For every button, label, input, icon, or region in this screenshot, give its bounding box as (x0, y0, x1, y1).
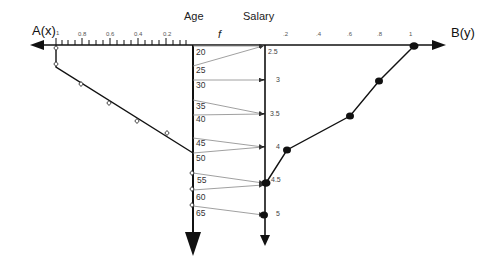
salary-value: 3.5 (270, 110, 280, 117)
age-axis (185, 45, 201, 256)
diagram-canvas (0, 0, 496, 263)
a-tick-label: 0.2 (163, 31, 171, 37)
salary-value: 5 (276, 210, 280, 217)
left-arrowhead-icon (30, 40, 44, 50)
membership-axis (30, 38, 446, 50)
age-value: 25 (196, 66, 205, 75)
salary-value: 4 (276, 143, 280, 150)
b-axis-label: B(y) (451, 26, 475, 39)
age-value: 50 (196, 154, 205, 163)
a-tick-label: 0.6 (106, 31, 114, 37)
a-diamond-markers (54, 46, 194, 208)
age-title: Age (184, 11, 204, 22)
b-membership-curve (260, 42, 419, 218)
b-dot-markers (260, 42, 419, 218)
salary-value: 3 (276, 76, 280, 83)
age-axis-arrowhead-icon (185, 232, 201, 256)
a-axis-ticks (56, 38, 186, 45)
salary-value: 2.5 (268, 48, 278, 55)
a-tick-label: 1 (56, 30, 59, 36)
salary-value: 4.5 (271, 176, 281, 183)
mapping-f-label: f (218, 29, 221, 40)
a-tick-label: 0.8 (78, 31, 86, 37)
b-tick-label: 1 (409, 31, 412, 37)
age-value: 65 (196, 209, 205, 218)
age-value: 60 (196, 193, 205, 202)
age-value: 55 (197, 176, 206, 185)
a-axis-label: A(x) (32, 24, 56, 37)
salary-axis-arrowhead-icon (260, 235, 270, 246)
salary-title: Salary (243, 11, 274, 22)
b-tick-label: .4 (316, 31, 321, 37)
right-arrowhead-icon (432, 40, 446, 50)
age-value: 35 (196, 102, 205, 111)
age-value: 30 (196, 81, 205, 90)
b-tick-label: .8 (377, 31, 382, 37)
a-tick-label: 0.4 (134, 31, 142, 37)
b-tick-label: .2 (283, 31, 288, 37)
age-value: 40 (196, 115, 205, 124)
a-membership-curve (54, 45, 194, 208)
age-value: 45 (196, 139, 205, 148)
age-value: 20 (196, 48, 205, 57)
b-tick-label: .6 (347, 31, 352, 37)
extension-principle-diagram: A(x) B(y) Age Salary f 1 0.8 0.6 0.4 0.2… (0, 0, 496, 263)
